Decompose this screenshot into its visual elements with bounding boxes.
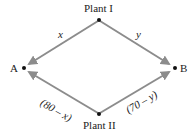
b-dot xyxy=(173,66,177,70)
plant1-dot xyxy=(97,18,101,22)
a-label: A xyxy=(10,63,18,74)
plant2-label: Plant II xyxy=(83,120,116,131)
shipping-diagram xyxy=(0,0,196,136)
b-label: B xyxy=(180,63,187,74)
arrow-plant1-to-b xyxy=(100,21,169,64)
plant1-label: Plant I xyxy=(84,3,113,14)
arrow-plant1-to-a xyxy=(29,21,98,64)
edge-label-x: x xyxy=(58,29,63,40)
edge-label-y: y xyxy=(136,29,141,40)
a-dot xyxy=(22,66,26,70)
plant2-dot xyxy=(97,112,101,116)
